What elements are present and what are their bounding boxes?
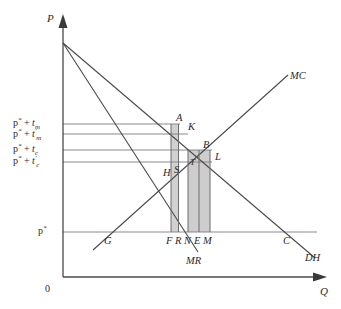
x-axis-label: Q <box>320 286 328 297</box>
y-tick-label-pstar-plus-tm-prime: p* + t'm <box>13 128 41 142</box>
x-marker-label-n: N <box>184 236 191 247</box>
curve-label-dh: DH <box>305 253 320 264</box>
x-marker-label-r: R <box>175 236 181 247</box>
point-label-s: S <box>174 165 179 176</box>
y-tick-label-pstar: p* <box>38 225 46 236</box>
point-label-a: A <box>176 113 182 124</box>
x-marker-label-f: F <box>166 236 172 247</box>
y-tick-label-pstar-plus-tc-prime: p* + t'c <box>13 155 39 169</box>
x-axis-arrowhead <box>313 273 327 282</box>
point-label-h: H <box>163 168 171 179</box>
y-axis-arrowhead <box>59 14 68 28</box>
point-label-c: C <box>283 236 290 247</box>
curve-label-mr: MR <box>186 256 201 267</box>
point-label-t: T <box>190 158 195 167</box>
figure-canvas: p* + tm p* + t'm p* + tc p* + t'c p* P Q… <box>0 0 341 309</box>
diagram-svg <box>0 0 341 309</box>
point-label-g: G <box>104 236 112 247</box>
curve-label-mc: MC <box>290 71 306 82</box>
point-label-l: L <box>215 152 221 163</box>
x-marker-label-m: M <box>203 236 212 247</box>
origin-label: 0 <box>45 284 50 294</box>
point-label-b: B <box>203 140 209 151</box>
point-label-k: K <box>188 122 195 133</box>
x-marker-label-e: E <box>194 236 200 247</box>
y-axis-label: P <box>47 13 54 24</box>
